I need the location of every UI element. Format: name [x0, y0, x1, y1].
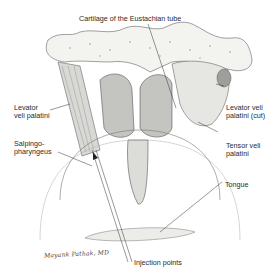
label-tensor-veli-palatini: Tensor veli palatini	[226, 142, 260, 159]
label-levator-veli-palatini-cut: Levator veli palatini (cut)	[226, 104, 265, 121]
label-cartilage-eustachian-tube: Cartilage of the Eustachian tube	[79, 15, 181, 23]
label-salpingopharyngeus: Salpingo- pharyngeus	[14, 140, 52, 157]
anatomical-illustration: Cartilage of the Eustachian tube Levator…	[0, 0, 280, 279]
label-levator-veli-palatini: Levator veli palatini	[14, 104, 50, 121]
label-tongue: Tongue	[225, 181, 249, 189]
label-injection-points: Injection points	[134, 259, 182, 267]
